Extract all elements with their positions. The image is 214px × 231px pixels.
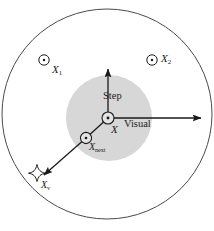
- diagram-canvas: [0, 0, 214, 231]
- node-label-x: X: [111, 124, 118, 135]
- arrow-label-visual: Visual: [124, 119, 151, 130]
- node-label-xnext: Xnext: [89, 142, 105, 152]
- node-label-x1: X1: [52, 64, 62, 75]
- node-label-x2: X2: [161, 53, 171, 64]
- arrow-label-step: Step: [103, 91, 122, 102]
- node-marker-x1: [39, 55, 49, 65]
- arrow-to-target: [44, 138, 86, 175]
- node-label-xv: Xv: [41, 180, 50, 190]
- visual-servoing-diagram: X1 X2 X Xnext Xv Step Visual: [0, 0, 214, 231]
- node-marker-x2: [147, 55, 157, 65]
